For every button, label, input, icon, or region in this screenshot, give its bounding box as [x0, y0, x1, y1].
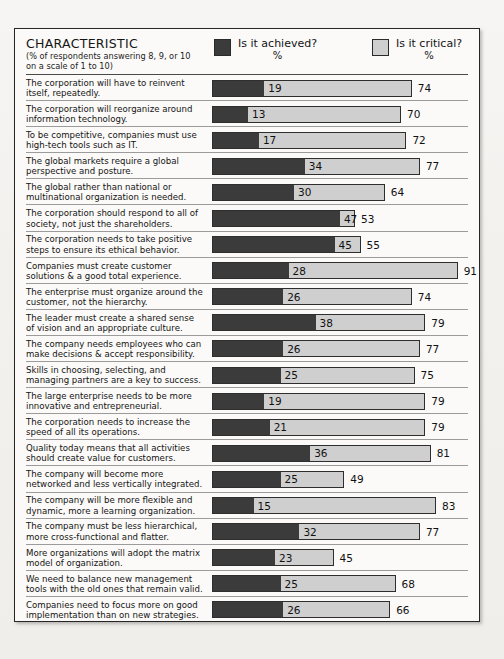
bar-area: 2677: [212, 339, 468, 358]
bar-achieved: [213, 211, 340, 226]
table-row: The company needs employees who canmake …: [15, 336, 479, 362]
bar-area: 2674: [212, 287, 468, 306]
legend-item-critical: Is it critical? %: [372, 37, 462, 62]
row-label: The global markets require a globalpersp…: [26, 156, 212, 176]
table-row: The corporation needs to take positivest…: [15, 232, 479, 258]
bar-achieved: [213, 185, 294, 200]
value-label-achieved: 19: [268, 396, 281, 407]
value-label-critical: 68: [402, 578, 415, 589]
row-label-line2: multinational organization is needed.: [26, 192, 208, 202]
row-label-line2: customer, not the hierarchy.: [26, 297, 208, 307]
row-label-line1: The leader must create a shared sense: [26, 313, 208, 323]
value-label-achieved: 45: [339, 239, 352, 250]
value-label-critical: 77: [426, 526, 439, 537]
row-label-line2: information technology.: [26, 114, 208, 124]
row-label-line1: The corporation will have to reinvent: [26, 78, 208, 88]
value-label-achieved: 17: [263, 135, 276, 146]
row-label-line2: of vision and an appropriate culture.: [26, 323, 208, 333]
row-label-line2: high-tech tools such as IT.: [26, 140, 208, 150]
row-label-line2: should create value for customers.: [26, 453, 208, 463]
bar-achieved: [213, 315, 316, 330]
bar-critical: [212, 471, 344, 488]
value-label-critical: 79: [431, 317, 444, 328]
value-label-achieved: 38: [320, 317, 333, 328]
header-title-column: CHARACTERISTIC (% of respondents answeri…: [26, 37, 212, 71]
row-label-line1: The corporation should respond to all of: [26, 208, 208, 218]
page-background: CHARACTERISTIC (% of respondents answeri…: [0, 0, 504, 659]
value-label-critical: 64: [391, 187, 404, 198]
value-label-achieved: 21: [274, 422, 287, 433]
value-label-critical: 70: [407, 109, 420, 120]
table-row: The company must be less hierarchical,mo…: [15, 519, 479, 545]
bar-critical: [212, 575, 396, 592]
row-label-line2: itself, repeatedly.: [26, 88, 208, 98]
row-label: The company must be less hierarchical,mo…: [26, 521, 212, 541]
bar-critical: [212, 393, 425, 410]
chart-header: CHARACTERISTIC (% of respondents answeri…: [15, 29, 479, 75]
bar-achieved: [213, 133, 259, 148]
bar-area: 2345: [212, 548, 468, 567]
value-label-critical: 53: [361, 213, 374, 224]
row-label-line2: innovative and entrepreneurial.: [26, 401, 208, 411]
row-label-line1: The company needs employees who can: [26, 339, 208, 349]
bar-critical: [212, 80, 412, 97]
bar-achieved: [213, 107, 248, 122]
row-label-line1: Companies need to focus more on good: [26, 600, 208, 610]
table-row: The corporation will reorganize aroundin…: [15, 101, 479, 127]
bar-critical: [212, 549, 334, 566]
table-row: More organizations will adopt the matrix…: [15, 545, 479, 571]
row-label-line1: The global rather than national or: [26, 182, 208, 192]
value-label-critical: 91: [464, 265, 477, 276]
bar-area: 2666: [212, 600, 468, 619]
legend: Is it achieved? % Is it critical? %: [212, 37, 462, 62]
bar-achieved: [213, 289, 283, 304]
chart-rows: The corporation will have to reinventits…: [15, 75, 479, 623]
row-label-line2: dynamic, more a learning organization.: [26, 506, 208, 516]
bar-area: 3477: [212, 157, 468, 176]
row-label: More organizations will adopt the matrix…: [26, 548, 212, 568]
bar-area: 4555: [212, 235, 468, 254]
row-label: The enterprise must organize around thec…: [26, 287, 212, 307]
bar-area: 1979: [212, 392, 468, 411]
table-row: We need to balance new managementtools w…: [15, 571, 479, 597]
bar-area: 2549: [212, 470, 468, 489]
row-label-line2: networked and less vertically integrated…: [26, 479, 208, 489]
value-label-critical: 79: [431, 396, 444, 407]
bar-critical: [212, 210, 355, 227]
legend-swatch-critical-icon: [372, 39, 389, 56]
value-label-critical: 55: [367, 239, 380, 250]
row-label-line1: More organizations will adopt the matrix: [26, 548, 208, 558]
row-label: Quality today means that all activitiess…: [26, 443, 212, 463]
row-label-line2: model of organization.: [26, 558, 208, 568]
bar-area: 2179: [212, 418, 468, 437]
table-row: The company will become morenetworked an…: [15, 466, 479, 492]
value-label-critical: 81: [437, 448, 450, 459]
row-label: We need to balance new managementtools w…: [26, 574, 212, 594]
row-label-line1: The corporation needs to increase the: [26, 417, 208, 427]
row-label: The corporation should respond to all of…: [26, 208, 212, 228]
table-row: The large enterprise needs to be moreinn…: [15, 388, 479, 414]
bar-achieved: [213, 420, 270, 435]
row-label-line2: implementation than on new strategies.: [26, 610, 208, 620]
bar-critical: [212, 601, 390, 618]
value-label-critical: 74: [418, 291, 431, 302]
bar-achieved: [213, 524, 299, 539]
bar-critical: [212, 262, 458, 279]
value-label-achieved: 47: [344, 213, 357, 224]
row-label-line1: The global markets require a global: [26, 156, 208, 166]
value-label-critical: 66: [396, 604, 409, 615]
row-label-line1: Skills in choosing, selecting, and: [26, 365, 208, 375]
bar-achieved: [213, 576, 281, 591]
bar-area: 1772: [212, 131, 468, 150]
row-label: The corporation will have to reinventits…: [26, 78, 212, 98]
row-label: Skills in choosing, selecting, andmanagi…: [26, 365, 212, 385]
row-label-line1: The corporation needs to take positive: [26, 234, 208, 244]
value-label-achieved: 25: [285, 370, 298, 381]
table-row: The global rather than national ormultin…: [15, 179, 479, 205]
value-label-critical: 77: [426, 343, 439, 354]
row-label-line1: We need to balance new management: [26, 574, 208, 584]
value-label-achieved: 36: [314, 448, 327, 459]
chart-frame: CHARACTERISTIC (% of respondents answeri…: [14, 28, 480, 622]
row-label: The corporation needs to increase thespe…: [26, 417, 212, 437]
row-label: Companies need to focus more on goodimpl…: [26, 600, 212, 620]
